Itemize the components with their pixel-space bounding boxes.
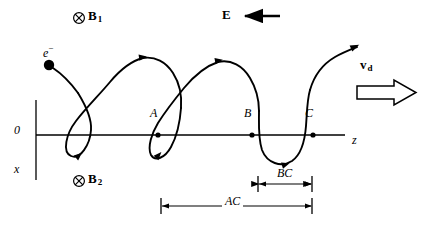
drift-velocity-label: vd	[360, 58, 373, 73]
point-label-c: C	[305, 107, 313, 119]
dimension-bc-arrowhead-left	[259, 181, 266, 186]
z-axis-label: z	[352, 134, 357, 146]
dimension-ac-arrowhead-left	[162, 203, 169, 208]
magnetic-field-bottom-symbol: B	[88, 171, 97, 186]
dimension-ac-arrowhead-right	[305, 203, 312, 208]
trajectory-loop-1	[66, 58, 143, 157]
dimension-bc-label: BC	[277, 167, 292, 179]
magnetic-field-symbol-top	[74, 13, 85, 24]
point-label-b: B	[244, 107, 251, 119]
origin-label: 0	[14, 124, 20, 136]
trajectory-loop-3	[259, 90, 310, 164]
trajectory-direction-arrows	[74, 42, 361, 169]
electric-field-label: E	[222, 8, 231, 21]
electron-label: e−	[43, 44, 53, 59]
magnetic-field-bottom-subscript: 2	[97, 177, 103, 187]
drift-velocity-symbol: v	[360, 57, 367, 72]
electron-charge-superscript: −	[48, 43, 53, 53]
trajectory-entry-segment	[53, 68, 78, 93]
node-dot-b	[249, 132, 254, 137]
node-dot-c	[310, 132, 315, 137]
figure-canvas: B1 B2 E vd e− 0 x z A B C BC AC	[0, 0, 422, 230]
magnetic-field-bottom-label: B2	[88, 172, 102, 187]
trajectory-crest-1	[143, 58, 181, 108]
magnetic-field-top-symbol: B	[88, 8, 97, 23]
electron-dot-marker	[44, 60, 54, 70]
magnetic-field-top-label: B1	[88, 9, 102, 24]
dimension-bc-arrowhead-right	[305, 181, 312, 186]
node-dot-a	[155, 132, 160, 137]
trajectory-diagram-svg	[0, 0, 422, 230]
drift-velocity-arrow	[357, 80, 416, 105]
magnetic-field-symbol-bottom	[74, 176, 85, 187]
trajectory-exit-arc	[310, 47, 357, 90]
drift-velocity-subscript: d	[367, 63, 373, 73]
dimension-ac-label: AC	[222, 195, 243, 207]
trajectory-loop-2	[150, 62, 218, 158]
trajectory-crest-2	[218, 61, 259, 111]
x-axis-label: x	[14, 163, 19, 175]
point-label-a: A	[150, 107, 157, 119]
magnetic-field-top-subscript: 1	[97, 14, 103, 24]
